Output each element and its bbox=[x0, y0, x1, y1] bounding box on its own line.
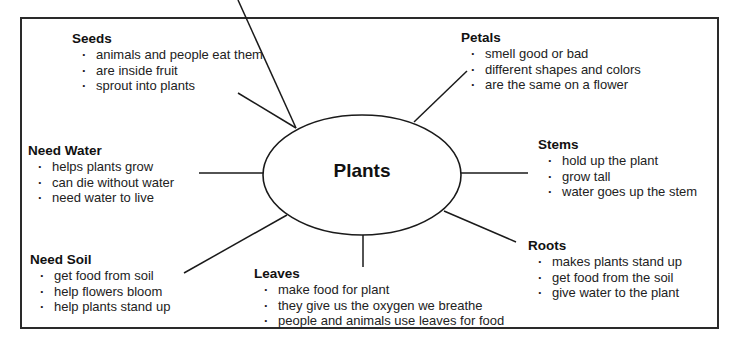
topic-item: are inside fruit bbox=[96, 63, 263, 79]
line-roots bbox=[444, 211, 516, 242]
line-petals bbox=[414, 71, 467, 122]
center-topic-label: Plants bbox=[263, 160, 461, 182]
topic-title: Roots bbox=[528, 237, 682, 254]
topic-item: sprout into plants bbox=[96, 78, 263, 94]
topic-item: help flowers bloom bbox=[54, 284, 170, 300]
topic-item: need water to live bbox=[52, 190, 174, 206]
topic-item: help plants stand up bbox=[54, 299, 170, 315]
topic-item: different shapes and colors bbox=[485, 62, 641, 78]
topic-item: smell good or bad bbox=[485, 46, 641, 62]
topic-title: Need Soil bbox=[30, 251, 170, 268]
topic-item: are the same on a flower bbox=[485, 77, 641, 93]
topic-item: give water to the plant bbox=[552, 285, 682, 301]
topic-seeds: Seeds animals and people eat them are in… bbox=[72, 30, 263, 94]
topic-item: hold up the plant bbox=[562, 153, 697, 169]
topic-item: get food from soil bbox=[54, 268, 170, 284]
topic-title: Seeds bbox=[72, 30, 263, 47]
topic-item: water goes up the stem bbox=[562, 184, 697, 200]
topic-stems: Stems hold up the plant grow tall water … bbox=[538, 136, 697, 200]
topic-title: Petals bbox=[461, 29, 641, 46]
topic-item: they give us the oxygen we breathe bbox=[278, 298, 504, 314]
topic-leaves: Leaves make food for plant they give us … bbox=[254, 265, 504, 329]
topic-item: people and animals use leaves for food bbox=[278, 313, 504, 329]
topic-roots: Roots makes plants stand up get food fro… bbox=[528, 237, 682, 301]
topic-item: helps plants grow bbox=[52, 159, 174, 175]
topic-item: makes plants stand up bbox=[552, 254, 682, 270]
topic-item: grow tall bbox=[562, 169, 697, 185]
topic-item: get food from the soil bbox=[552, 270, 682, 286]
topic-need-soil: Need Soil get food from soil help flower… bbox=[30, 251, 170, 315]
topic-item: animals and people eat them bbox=[96, 47, 263, 63]
topic-item: make food for plant bbox=[278, 282, 504, 298]
topic-title: Leaves bbox=[254, 265, 504, 282]
topic-item: can die without water bbox=[52, 175, 174, 191]
topic-need-water: Need Water helps plants grow can die wit… bbox=[28, 142, 174, 206]
topic-title: Need Water bbox=[28, 142, 174, 159]
topic-petals: Petals smell good or bad different shape… bbox=[461, 29, 641, 93]
topic-title: Stems bbox=[538, 136, 697, 153]
